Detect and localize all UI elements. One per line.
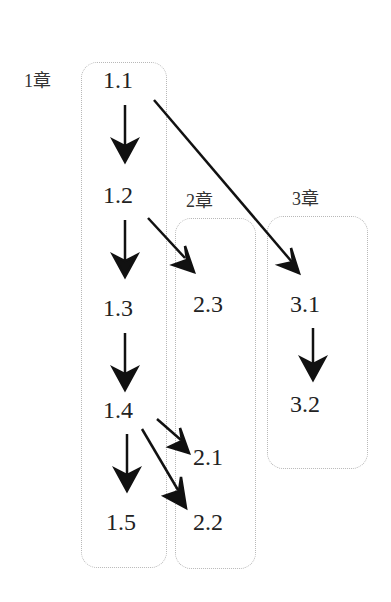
arrow-1-2-to-2-3 — [148, 218, 194, 272]
arrow-1-4-to-2-1 — [157, 419, 189, 453]
arrow-1-2-to-1-3 — [113, 220, 137, 277]
arrow-1-1-to-1-2 — [113, 105, 137, 162]
arrow-1-4-to-1-5 — [115, 434, 139, 491]
arrow-3-1-to-3-2 — [301, 328, 325, 380]
arrow-1-3-to-1-4 — [113, 333, 137, 390]
edges-layer — [0, 0, 391, 602]
